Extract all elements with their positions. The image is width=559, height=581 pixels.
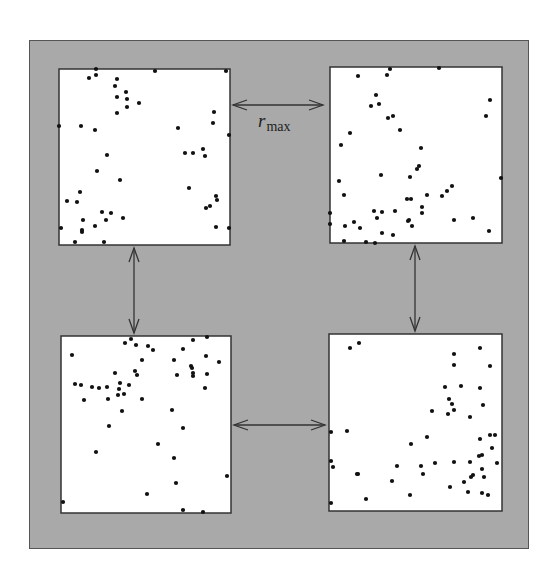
data-point [480,491,484,495]
data-point [488,98,492,102]
data-point [190,366,194,370]
data-point [106,397,110,401]
data-point [445,189,449,193]
data-point [345,429,349,433]
data-point [452,352,456,356]
data-point [448,485,452,489]
data-point [385,73,389,77]
data-point [227,226,231,230]
data-point [329,430,333,434]
data-point [329,459,333,463]
data-point [373,241,377,245]
data-point [151,348,155,352]
scatter-panel-top-right [328,66,503,245]
data-point [105,385,109,389]
data-point [133,369,137,373]
data-point [469,475,473,479]
data-point [211,121,215,125]
data-point [156,442,160,446]
data-point [398,128,402,132]
data-point [57,124,61,128]
data-point [331,465,335,469]
data-point [174,481,178,485]
data-point [446,412,450,416]
data-point [227,133,231,137]
data-point [499,176,503,180]
data-point [480,467,484,471]
scatter-panel-bottom-right [329,334,502,511]
data-point [201,510,205,514]
data-point [356,74,360,78]
data-point [329,501,333,505]
scatter-panel-bottom-left [61,335,231,514]
data-point [480,453,484,457]
data-point [104,218,108,222]
data-point [380,210,384,214]
r-symbol: r [258,110,266,131]
data-point [181,347,185,351]
data-point [375,216,379,220]
data-point [105,153,109,157]
data-point [80,230,84,234]
panel-box [330,67,502,243]
data-point [82,398,86,402]
data-point [176,126,180,130]
data-point [183,151,187,155]
data-point [343,224,347,228]
data-point [478,386,482,390]
data-point [140,397,144,401]
data-point [94,67,98,71]
data-point [374,93,378,97]
data-point [419,146,423,150]
data-point [73,240,77,244]
data-point [124,90,128,94]
data-point [339,143,343,147]
data-point [87,76,91,80]
data-point [116,393,120,397]
data-point [487,229,491,233]
data-point [115,111,119,115]
data-point [450,184,454,188]
panel-box [329,334,502,511]
data-point [61,500,65,504]
data-point [490,446,494,450]
data-point [409,197,413,201]
data-point [342,193,346,197]
data-point [191,338,195,342]
data-point [430,409,434,413]
data-point [468,460,472,464]
data-point [420,205,424,209]
data-point [348,346,352,350]
data-point [437,66,441,70]
data-point [205,335,209,339]
data-point [447,397,451,401]
data-point [372,209,376,213]
data-point [433,461,437,465]
data-point [65,199,69,203]
data-point [495,461,499,465]
data-point [100,210,104,214]
data-point [408,493,412,497]
r-max-label: rmax [258,110,291,134]
data-point [468,415,472,419]
data-point [390,479,394,483]
data-point [493,433,497,437]
data-point [70,353,74,357]
data-point [452,460,456,464]
data-point [93,224,97,228]
data-point [342,239,346,243]
data-point [122,392,126,396]
data-point [204,354,208,358]
data-point [191,151,195,155]
data-point [328,222,332,226]
data-point [113,84,117,88]
data-point [75,200,79,204]
data-point [109,211,113,215]
data-point [129,337,133,341]
data-point [386,116,390,120]
data-point [225,474,229,478]
data-point [488,433,492,437]
data-point [135,373,139,377]
data-point [172,358,176,362]
data-point [121,216,125,220]
